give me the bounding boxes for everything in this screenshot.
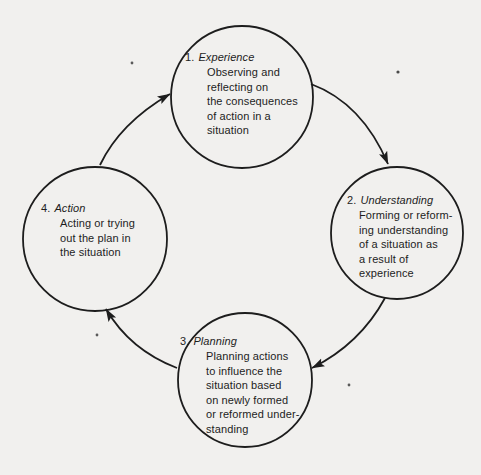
node-title: 2.Understanding (347, 193, 452, 208)
node-description: Acting or trying out the plan in the sit… (41, 216, 135, 260)
node-description: Observing and reflecting on the conseque… (185, 65, 298, 138)
node-text-line: Planning actions (206, 349, 300, 364)
node-number: 3. (180, 335, 189, 347)
node-text-line: of action in a (207, 109, 298, 124)
scan-speck (348, 384, 351, 387)
arrow-experience-to-understanding (311, 84, 388, 164)
node-name: Action (54, 202, 85, 214)
node-text-line: ing understanding (359, 223, 452, 238)
node-experience: 1.Experience Observing and reflecting on… (185, 50, 298, 138)
node-number: 4. (41, 202, 50, 214)
node-text-line: on newly formed (206, 393, 300, 408)
node-number: 1. (185, 51, 194, 63)
node-text-line: a result of (359, 252, 452, 267)
node-description: Forming or reform- ing understanding of … (347, 208, 452, 281)
node-text-line: situation (207, 123, 298, 138)
node-understanding: 2.Understanding Forming or reform- ing u… (347, 193, 452, 281)
arrow-action-to-experience (100, 94, 170, 165)
node-text-line: Acting or trying (60, 216, 135, 231)
node-text-line: reflecting on (207, 80, 298, 95)
node-name: Experience (198, 51, 254, 63)
node-description: Planning actions to influence the situat… (180, 349, 300, 436)
node-text-line: of a situation as (359, 237, 452, 252)
arrow-planning-to-action (106, 309, 177, 368)
node-text-line: or reformed under- (206, 407, 300, 422)
node-action: 4.Action Acting or trying out the plan i… (41, 201, 135, 260)
node-text-line: standing (206, 422, 300, 437)
node-text-line: Observing and (207, 65, 298, 80)
learning-cycle-diagram: 1.Experience Observing and reflecting on… (0, 0, 481, 475)
node-text-line: situation based (206, 378, 300, 393)
node-number: 2. (347, 194, 356, 206)
scan-speck (96, 334, 99, 337)
node-text-line: Forming or reform- (359, 208, 452, 223)
node-planning: 3.Planning Planning actions to influence… (180, 334, 300, 436)
node-name: Planning (193, 335, 237, 347)
node-title: 1.Experience (185, 50, 298, 65)
scan-speck (396, 70, 399, 73)
node-text-line: out the plan in (60, 231, 135, 246)
node-title: 3.Planning (180, 334, 300, 349)
node-text-line: to influence the (206, 364, 300, 379)
node-text-line: the consequences (207, 94, 298, 109)
node-text-line: experience (359, 266, 452, 281)
node-title: 4.Action (41, 201, 135, 216)
node-text-line: the situation (60, 245, 135, 260)
node-name: Understanding (360, 194, 433, 206)
arrow-understanding-to-planning (312, 298, 385, 368)
scan-speck (131, 62, 134, 65)
